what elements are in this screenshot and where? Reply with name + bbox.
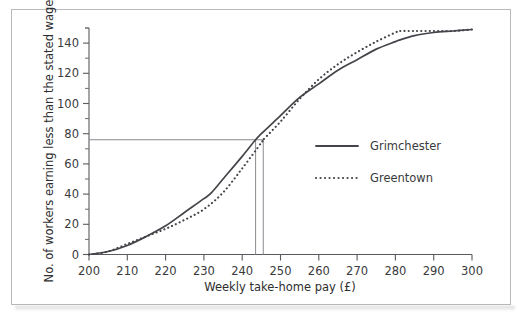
- x-tick-label: 280: [384, 264, 406, 278]
- chart-legend: GrimchesterGreentown: [316, 139, 441, 185]
- x-tick-label: 250: [270, 264, 292, 278]
- y-tick-label: 120: [57, 66, 79, 80]
- x-tick-label: 240: [231, 264, 253, 278]
- y-tick-label: 140: [57, 36, 79, 50]
- x-tick-label: 220: [155, 264, 177, 278]
- x-tick-label: 230: [193, 264, 215, 278]
- y-axis-ticks: [83, 28, 89, 255]
- y-tick-label: 80: [64, 127, 79, 141]
- legend-item-grimchester: Grimchester: [316, 139, 441, 153]
- y-tick-label: 0: [72, 248, 79, 262]
- y-axis-tick-labels: 020406080100120140: [57, 36, 79, 261]
- cumulative-frequency-figure: 020406080100120140 200210220230240250260…: [0, 0, 523, 326]
- x-tick-label: 270: [346, 264, 368, 278]
- y-tick-label: 60: [64, 157, 79, 171]
- x-axis-title: Weekly take-home pay (£): [204, 280, 356, 294]
- x-axis-tick-labels: 200210220230240250260270280290300: [78, 264, 483, 278]
- x-tick-label: 200: [78, 264, 100, 278]
- legend-item-greentown: Greentown: [316, 171, 433, 185]
- y-axis-title: No. of workers earning less than the sta…: [42, 0, 56, 282]
- x-tick-label: 260: [308, 264, 330, 278]
- x-tick-label: 300: [461, 264, 483, 278]
- legend-label: Greentown: [370, 171, 433, 185]
- median-construction-lines: [89, 140, 263, 255]
- chart-canvas: 020406080100120140 200210220230240250260…: [0, 0, 523, 326]
- x-tick-label: 210: [116, 264, 138, 278]
- y-tick-label: 100: [57, 97, 79, 111]
- y-tick-label: 20: [64, 217, 79, 231]
- x-axis-ticks: [89, 255, 472, 261]
- x-tick-label: 290: [423, 264, 445, 278]
- y-tick-label: 40: [64, 187, 79, 201]
- legend-label: Grimchester: [370, 139, 441, 153]
